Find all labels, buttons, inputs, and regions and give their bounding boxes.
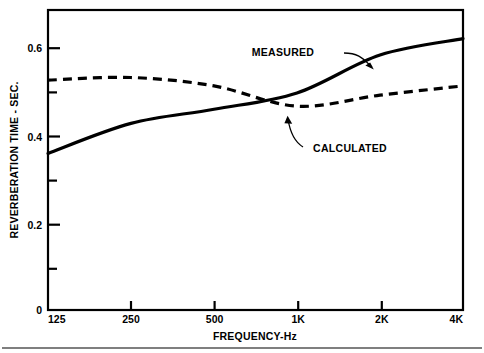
y-tick-label-0: 0 [36, 304, 42, 316]
y-axis-title: REVERBERATION TIME - SEC. [8, 81, 20, 238]
calculated-annotation-leader [284, 116, 303, 147]
y-tick-label-0point2: 0.2 [27, 219, 42, 231]
y-tick-label-0point6: 0.6 [27, 42, 42, 54]
y-tick-label-0point4: 0.4 [27, 131, 42, 143]
x-axis-tick-labels: 125 250 500 1K 2K 4K [48, 313, 463, 325]
calculated-series-label: CALCULATED [313, 142, 387, 154]
x-axis-title: FREQUENCY-Hz [213, 330, 297, 342]
measured-arrow-icon [365, 62, 373, 69]
x-tick-label-4k: 4K [450, 313, 464, 325]
measured-series-label: MEASURED [252, 46, 315, 58]
y-axis-tick-labels: 0.6 0.4 0.2 0 [27, 42, 42, 316]
calculated-arrow-icon [284, 116, 292, 124]
x-tick-label-250: 250 [122, 313, 140, 325]
x-tick-label-125: 125 [48, 313, 66, 325]
x-tick-label-1k: 1K [291, 313, 305, 325]
chart-canvas: 0.6 0.4 0.2 0 REVERBERATION TIME - SEC. … [0, 0, 484, 353]
x-axis-ticks [131, 301, 382, 310]
reverberation-time-chart-figure: 0.6 0.4 0.2 0 REVERBERATION TIME - SEC. … [0, 0, 484, 353]
x-tick-label-2k: 2K [375, 313, 389, 325]
x-tick-label-500: 500 [206, 313, 224, 325]
